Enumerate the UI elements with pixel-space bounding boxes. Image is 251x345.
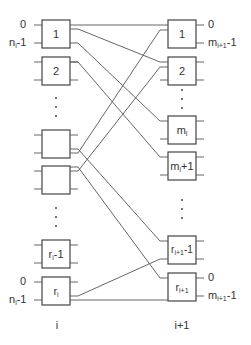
left-box-ri-minus-1-label: ri-1 [42,248,70,261]
left-top-zero-label: 0 [20,19,26,30]
right-box-ri1-minus-1-label: ri+1-1 [166,244,198,256]
left-column-label: i [53,320,61,331]
right-column-label: i+1 [172,320,192,331]
right-box-ri1-label: ri+1 [168,281,196,294]
left-box-ri-label: ri [42,285,70,298]
right-bottom-m-label: mi+1-1 [208,290,237,304]
right-ellipsis-upper [181,89,183,116]
right-box-1-label: 1 [168,28,196,40]
right-box-2-label: 2 [168,65,196,77]
left-box-3 [42,130,70,158]
right-ellipsis-lower [181,199,183,226]
right-box-mi-plus-1-label: mi+1 [168,160,196,173]
right-top-m-label: mi+1-1 [208,37,237,51]
left-box-1-label: 1 [42,28,70,40]
left-box-2-label: 2 [42,65,70,77]
left-top-n-label: ni-1 [9,37,26,51]
right-top-zero-label: 0 [208,19,214,30]
left-box-4 [42,166,70,194]
left-ellipsis-lower [55,207,57,234]
right-box-mi-label: mi [168,124,196,137]
left-bottom-n-label: ni-1 [9,294,26,308]
right-bottom-zero-label: 0 [208,272,214,283]
left-bottom-zero-label: 0 [20,276,26,287]
left-ellipsis-upper [55,97,57,124]
